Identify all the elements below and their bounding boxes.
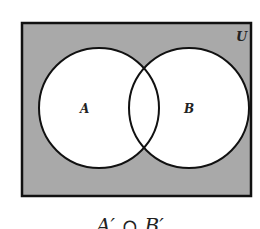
venn-diagram: U A B A′ ∩ B′ [0,0,260,229]
set-b-label: B [183,102,194,116]
universe-label: U [236,29,248,44]
set-a-label: A [79,102,89,116]
caption: A′ ∩ B′ [94,214,164,229]
shaded-complement-region [22,23,251,196]
